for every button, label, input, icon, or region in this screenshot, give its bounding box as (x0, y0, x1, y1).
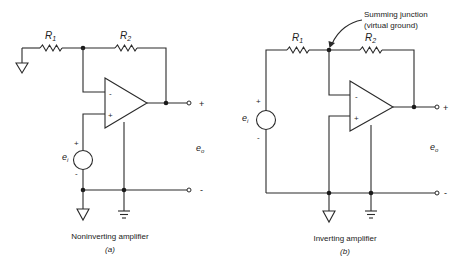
r1-label: R1 (45, 30, 56, 42)
opamp-inverting-sign: - (109, 89, 112, 98)
voltage-source-ei (74, 151, 93, 170)
source-minus-label: - (257, 133, 260, 142)
annotation-line-2: (virtual ground) (364, 21, 418, 30)
opamp-inverting-sign: - (355, 92, 358, 101)
output-terminal-plus (435, 105, 439, 109)
output-voltage-label: eo (430, 142, 439, 153)
output-terminal-minus (187, 188, 191, 192)
output-plus-label: + (199, 99, 204, 109)
opamp-triangle (350, 81, 393, 131)
caption-title: Inverting amplifier (313, 234, 376, 243)
panel-a-noninverting (16, 45, 191, 220)
output-terminal-plus (187, 101, 191, 105)
earth-ground-symbol (118, 211, 130, 218)
source-plus-label: + (256, 97, 261, 106)
ground-symbol-left (16, 48, 28, 73)
r1-label: R1 (292, 32, 303, 44)
ground-symbol (77, 190, 89, 220)
output-terminal-minus (435, 191, 439, 195)
resistor-r1 (40, 45, 62, 51)
source-minus-label: - (75, 169, 78, 178)
source-plus-label: + (74, 139, 79, 148)
opamp-triangle (105, 78, 147, 128)
r2-label: R2 (365, 32, 376, 44)
caption-tag: (a) (105, 245, 115, 254)
caption-title: Noninverting amplifier (71, 232, 149, 241)
annotation-line-1: Summing junction (364, 10, 428, 19)
opamp-circuits-figure: R1 R2 - + + - + - ei eo Noninverting amp… (0, 0, 461, 268)
resistor-r2 (115, 45, 137, 51)
opamp-noninverting-sign: + (354, 114, 359, 123)
earth-ground-symbol (365, 211, 377, 218)
input-voltage-label: ei (62, 152, 69, 163)
opamp-noninverting-sign: + (108, 111, 113, 120)
annotation-arrow (329, 20, 363, 48)
output-minus-label: - (200, 185, 203, 195)
resistor-r2 (360, 47, 382, 53)
voltage-source-ei (257, 111, 276, 130)
input-voltage-label: ei (242, 113, 249, 124)
resistor-r1 (287, 47, 309, 53)
output-voltage-label: eo (196, 143, 205, 154)
output-plus-label: + (443, 103, 448, 113)
r2-label: R2 (120, 30, 131, 42)
output-minus-label: - (444, 188, 447, 198)
ground-symbol (323, 211, 335, 222)
caption-tag: (b) (340, 247, 350, 256)
panel-b-inverting (257, 20, 440, 222)
